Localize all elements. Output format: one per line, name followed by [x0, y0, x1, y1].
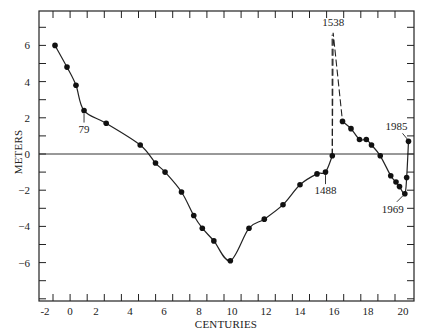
- data-point: [357, 137, 363, 143]
- x-tick-label: 4: [127, 305, 133, 317]
- y-tick-label: −2: [18, 184, 30, 196]
- x-tick-label: 16: [329, 305, 341, 317]
- data-point: [246, 225, 252, 231]
- tick-labels: -2024681012141618206420−2−4−6: [18, 39, 409, 317]
- data-point: [103, 120, 109, 126]
- y-tick-label: 0: [25, 148, 31, 160]
- y-axis-title: METERS: [12, 130, 24, 175]
- data-point: [364, 137, 370, 143]
- data-point: [369, 142, 375, 148]
- data-point: [348, 126, 354, 132]
- data-point: [73, 82, 79, 88]
- sea-level-chart: -2024681012141618206420−2−4−6 7914881538…: [0, 0, 421, 336]
- annotation-label: 1969: [382, 203, 405, 215]
- data-point: [153, 160, 159, 166]
- data-point: [211, 238, 217, 244]
- x-tick-label: 0: [67, 305, 73, 317]
- y-tick-label: 6: [25, 39, 31, 51]
- data-point: [377, 153, 383, 159]
- data-point: [200, 225, 206, 231]
- annotation-leader: [397, 196, 403, 202]
- data-points: [52, 43, 411, 264]
- data-point: [81, 108, 87, 114]
- data-point: [397, 184, 403, 190]
- annotation-label: 79: [79, 123, 91, 135]
- data-point: [406, 139, 412, 145]
- series-line: [55, 45, 332, 261]
- y-tick-label: 2: [25, 112, 31, 124]
- data-point: [228, 258, 234, 264]
- x-tick-label: 20: [398, 305, 410, 317]
- x-tick-label: 8: [196, 305, 202, 317]
- y-tick-label: −4: [18, 220, 30, 232]
- data-point: [191, 213, 197, 219]
- data-point: [388, 173, 394, 179]
- data-point: [162, 169, 168, 175]
- data-point: [393, 179, 399, 185]
- data-point: [52, 43, 58, 49]
- data-point: [179, 189, 185, 195]
- x-tick-label: 14: [295, 305, 307, 317]
- annotations: 791488153819691985: [79, 16, 408, 215]
- x-tick-label: 12: [261, 305, 272, 317]
- data-point: [137, 142, 143, 148]
- data-point: [330, 153, 336, 159]
- x-tick-label: -2: [40, 305, 49, 317]
- axis-ticks: [39, 11, 414, 301]
- data-point: [64, 64, 70, 70]
- data-series: [55, 33, 409, 261]
- x-tick-label: 10: [227, 305, 239, 317]
- x-tick-label: 6: [161, 305, 167, 317]
- dashed-segment: [332, 33, 342, 156]
- x-axis-title: CENTURIES: [195, 318, 257, 330]
- data-point: [323, 169, 329, 175]
- plot-frame: [39, 11, 414, 301]
- data-point: [297, 182, 303, 188]
- data-point: [314, 171, 320, 177]
- data-point: [280, 202, 286, 208]
- x-tick-label: 2: [93, 305, 99, 317]
- data-point: [262, 216, 268, 222]
- annotation-label: 1538: [322, 16, 345, 28]
- annotation-label: 1985: [386, 120, 409, 132]
- x-tick-label: 18: [363, 305, 375, 317]
- data-point: [402, 191, 408, 197]
- y-tick-label: 4: [25, 76, 31, 88]
- data-point: [340, 119, 346, 125]
- data-point: [404, 175, 410, 181]
- y-tick-label: −6: [18, 257, 30, 269]
- annotation-label: 1488: [315, 184, 338, 196]
- annotation-leader: [403, 133, 408, 139]
